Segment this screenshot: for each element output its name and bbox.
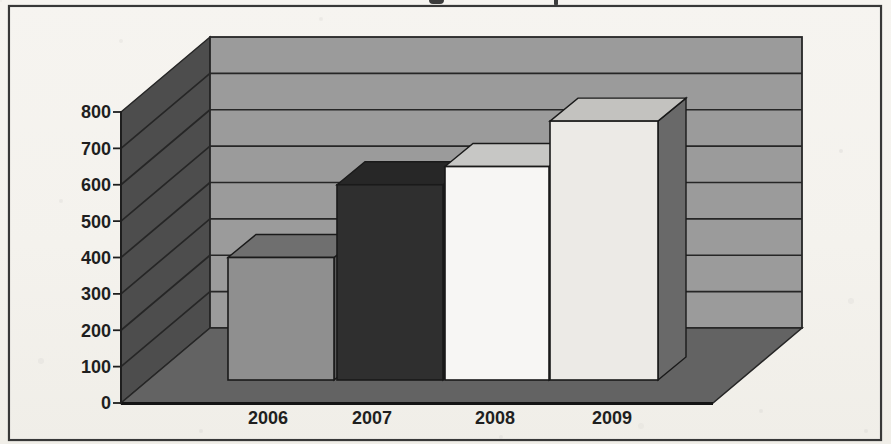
bar-2009 <box>550 121 658 380</box>
y-axis-label: 600 <box>81 175 111 195</box>
bar-2007 <box>337 185 443 380</box>
x-axis-label: 2006 <box>248 408 288 428</box>
x-axis-label: 2008 <box>475 408 515 428</box>
y-axis-label: 700 <box>81 139 111 159</box>
bar-chart-3d: 0100200300400500600700800200620072008200… <box>0 0 891 444</box>
bar-2006 <box>228 258 334 381</box>
y-axis-label: 200 <box>81 321 111 341</box>
bar-2008 <box>445 167 549 380</box>
y-axis-label: 0 <box>101 393 111 413</box>
y-axis-label: 500 <box>81 212 111 232</box>
y-axis-label: 300 <box>81 284 111 304</box>
x-axis-label: 2009 <box>592 408 632 428</box>
y-axis-label: 100 <box>81 357 111 377</box>
y-axis-label: 800 <box>81 102 111 122</box>
bar-side-2009 <box>658 98 686 380</box>
y-axis-label: 400 <box>81 248 111 268</box>
scanned-page: 0100200300400500600700800200620072008200… <box>0 0 891 444</box>
x-axis-label: 2007 <box>352 408 392 428</box>
